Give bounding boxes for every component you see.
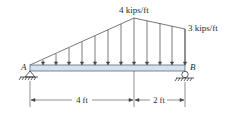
support-b-label: B xyxy=(190,62,196,72)
load-arrows xyxy=(42,18,187,65)
left-span-label: 4 ft xyxy=(76,95,88,105)
beam-diagram: 4 kips/ft 3 kips/ft A B 4 ft 2 ft xyxy=(0,0,233,113)
support-a-label: A xyxy=(20,62,27,72)
peak-load-label: 4 kips/ft xyxy=(119,5,149,15)
roller-support-icon xyxy=(175,71,194,81)
pin-support-icon xyxy=(19,71,38,80)
load-envelope xyxy=(30,18,185,65)
beam xyxy=(30,65,185,71)
right-span-label: 2 ft xyxy=(153,95,165,105)
end-load-label: 3 kips/ft xyxy=(188,23,218,33)
